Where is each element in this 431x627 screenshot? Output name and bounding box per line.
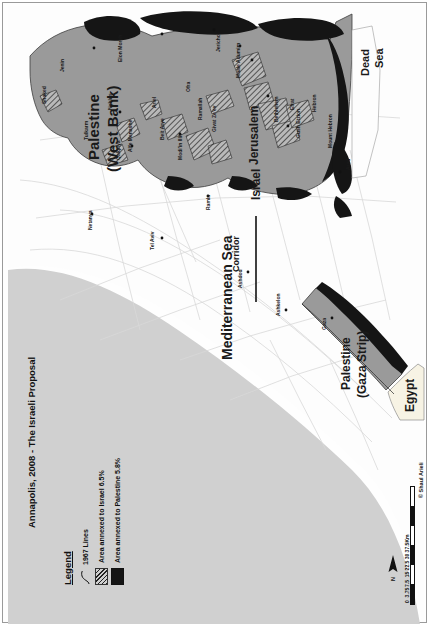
region-label-israel: Israel bbox=[250, 169, 263, 200]
city-label-arad: Arad bbox=[346, 159, 351, 170]
city-label-jericho: Jericho bbox=[216, 34, 221, 52]
legend-item-annexed-palestine: Area annexed to Palestine 5.8% bbox=[111, 435, 123, 585]
city-label-mount-hebron: Mount Hebron bbox=[328, 114, 333, 148]
city-label-hebron: Hebron bbox=[312, 95, 317, 113]
north-arrow: N bbox=[388, 554, 398, 581]
city-label-gaza: Gaza bbox=[322, 318, 327, 330]
legend-label-annexed-israel: Area annexed to Israel 6.5% bbox=[98, 470, 105, 563]
city-label-maale-adumim: Maale Adumim bbox=[236, 43, 241, 78]
city-label-beit-arye: Beit Arye bbox=[160, 118, 165, 140]
region-label-gaza-line1: Palestine bbox=[340, 337, 353, 390]
hatch-swatch-icon bbox=[95, 568, 108, 585]
city-label-ofra: Ofra bbox=[186, 82, 191, 92]
legend-label-annexed-palestine: Area annexed to Palestine 5.8% bbox=[114, 458, 121, 563]
city-label-givat-zeev: Givat Ze'ev bbox=[212, 106, 217, 132]
city-label-bethlehem: Bethlehem bbox=[274, 96, 279, 122]
city-label-alfe-menashe: Alfe Menashe bbox=[128, 120, 133, 152]
city-label-ashkelon: Ashkelon bbox=[276, 293, 281, 316]
city-label-ariel: Ariel bbox=[152, 97, 157, 108]
water-label-dead-sea-line1: Dead bbox=[360, 49, 372, 76]
north-arrow-icon bbox=[388, 554, 398, 576]
legend-heading: Legend bbox=[62, 435, 73, 585]
scale-bar: 0 3.75 7.5 15 22.5 30 37.5 Km bbox=[404, 486, 415, 605]
map-credit: © Shaul Arieli bbox=[418, 462, 424, 498]
city-label-netanya: Netanya bbox=[88, 211, 93, 230]
city-label-tulkarm: Tulkarm bbox=[84, 121, 89, 140]
solid-swatch-icon bbox=[111, 568, 124, 585]
city-label-shaked: Shaked bbox=[42, 86, 47, 104]
city-label-jenin: Jenin bbox=[60, 59, 65, 72]
city-label-ramla: Ramla bbox=[206, 195, 211, 210]
legend-item-annexed-israel: Area annexed to Israel 6.5% bbox=[95, 435, 107, 585]
legend: Legend 1967 Lines Area annexed to Israel… bbox=[62, 435, 127, 585]
city-label-jerusalem: Jerusalem bbox=[248, 106, 261, 165]
city-label-modiin-illit: Modi'in Illit bbox=[178, 134, 183, 160]
legend-item-1967-lines: 1967 Lines bbox=[79, 435, 91, 585]
region-label-gaza-line2: (Gaza Strip) bbox=[356, 331, 369, 398]
legend-label-1967-lines: 1967 Lines bbox=[82, 529, 89, 565]
annotation-corridor: Corridor bbox=[232, 236, 241, 272]
water-label-dead-sea-line2: Sea bbox=[374, 48, 386, 68]
map-figure: Palestine (West Bank) Israel Palestine (… bbox=[0, 0, 431, 627]
city-label-ashdod: Ashdod bbox=[238, 269, 243, 288]
region-label-egypt: Egypt bbox=[404, 379, 417, 412]
city-label-tel-aviv: Tel Aviv bbox=[150, 232, 155, 250]
city-label-gush-etzion: Gush Etzion bbox=[296, 109, 301, 138]
city-label-qalqilya: Qalqilya bbox=[116, 141, 121, 160]
city-label-elon-moreh: Elon Moreh bbox=[118, 35, 123, 62]
scale-bar-segments bbox=[410, 486, 415, 605]
city-label-ramallah: Ramallah bbox=[198, 98, 203, 120]
map-title: Annapolis, 2008 - The Israeli Proposal bbox=[26, 357, 37, 528]
north-arrow-label: N bbox=[390, 577, 396, 581]
city-label-nablus: Nablus bbox=[108, 93, 113, 110]
line-1967-icon bbox=[80, 570, 91, 585]
